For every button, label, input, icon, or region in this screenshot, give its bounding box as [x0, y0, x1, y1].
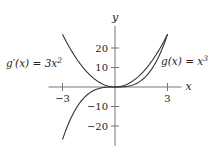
labels: xy−332010−10−20g′(x) = 3x2g(x) = x3: [6, 11, 208, 132]
x-tick-label: −3: [55, 93, 70, 104]
chart: xy−332010−10−20g′(x) = 3x2g(x) = x3: [0, 0, 224, 149]
x-axis-label: x: [186, 80, 193, 93]
curve-label-exponent: 3: [203, 54, 208, 63]
y-tick-label: 20: [95, 43, 108, 54]
curve-label-derivative: g′(x) = 3x2: [6, 56, 62, 69]
x-tick-label: 3: [164, 93, 170, 104]
y-axis-label: y: [111, 11, 119, 24]
y-tick-label: −20: [87, 121, 108, 132]
axes: [49, 26, 182, 146]
curve-label-exponent: 2: [56, 56, 62, 65]
y-tick-label: −10: [87, 101, 108, 112]
curve-label-text: g′(x) = 3x: [6, 57, 57, 69]
y-tick-label: 10: [95, 62, 108, 73]
curve-label-text: g(x) = x: [161, 55, 203, 67]
curve-label-cubic: g(x) = x3: [161, 54, 208, 67]
